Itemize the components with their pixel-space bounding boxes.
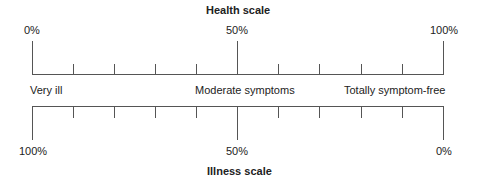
- illness-label-50: 50%: [226, 145, 248, 158]
- illness-scale-title: Illness scale: [207, 165, 272, 178]
- illness-label-100: 100%: [19, 145, 47, 158]
- illness-label-0: 0%: [436, 145, 452, 158]
- illness-scale: [32, 106, 444, 140]
- descriptor-symptom-free: Totally symptom-free: [344, 84, 445, 97]
- descriptor-moderate-symptoms: Moderate symptoms: [195, 84, 295, 97]
- health-scale: [32, 41, 444, 75]
- descriptor-very-ill: Very ill: [30, 84, 62, 97]
